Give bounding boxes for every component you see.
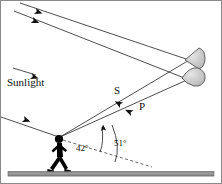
angle-label-51: 51° <box>114 138 127 148</box>
observer-torso <box>57 143 63 157</box>
sunlight-label: Sunlight <box>7 76 44 88</box>
figure-border <box>1 1 222 184</box>
diagram-canvas: Sunlight S P 42° 51° <box>0 0 222 184</box>
ray-label-s: S <box>114 84 120 96</box>
rainbow-diagram-figure: Sunlight S P 42° 51° <box>0 0 222 184</box>
ground-surface <box>8 172 214 177</box>
angle-label-42: 42° <box>76 143 89 153</box>
ray-label-p: P <box>139 100 145 112</box>
observer-head <box>55 135 63 143</box>
